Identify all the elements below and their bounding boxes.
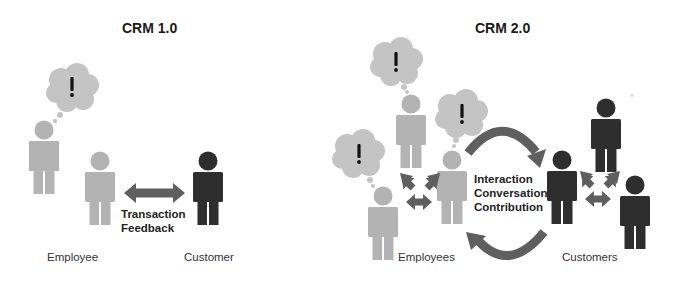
- diagram-artwork: [0, 0, 678, 283]
- curved-arrow-icon: [468, 131, 546, 168]
- relation-line: Transaction: [121, 207, 186, 221]
- relation-line: Contribution: [474, 200, 548, 214]
- person-icon: [620, 176, 650, 250]
- person-icon: [85, 152, 115, 226]
- person-icon: [547, 151, 577, 225]
- double-arrow-icon: [124, 183, 185, 203]
- thought-bubble-icon: [332, 129, 385, 188]
- relation-line: Conversation: [474, 186, 548, 200]
- person-icon: [591, 99, 621, 173]
- employees-label: Employees: [398, 251, 455, 263]
- thought-bubble-icon: [46, 63, 99, 128]
- person-icon: [368, 187, 398, 261]
- person-icon: [29, 121, 59, 195]
- customer-label: Customer: [184, 251, 234, 263]
- cycle-arrows-icon: [397, 172, 442, 210]
- person-icon: [437, 151, 467, 225]
- curved-arrow-icon: [466, 232, 544, 256]
- customers-label: Customers: [562, 251, 618, 263]
- crm-comparison-diagram: CRM 1.0 Transaction Feedback Employee Cu…: [0, 0, 678, 283]
- panel-title-crm-2: CRM 2.0: [475, 20, 530, 36]
- person-icon: [396, 95, 426, 169]
- relation-line: Feedback: [121, 221, 186, 235]
- person-icon: [193, 152, 223, 226]
- relation-line: Interaction: [474, 172, 548, 186]
- thought-bubble-icon: [370, 37, 423, 94]
- cycle-arrows-icon: [576, 170, 621, 207]
- employee-label: Employee: [47, 251, 98, 263]
- panel-title-crm-1: CRM 1.0: [122, 20, 177, 36]
- relation-label-crm-1: Transaction Feedback: [121, 207, 186, 235]
- relation-label-crm-2: Interaction Conversation Contribution: [474, 172, 548, 214]
